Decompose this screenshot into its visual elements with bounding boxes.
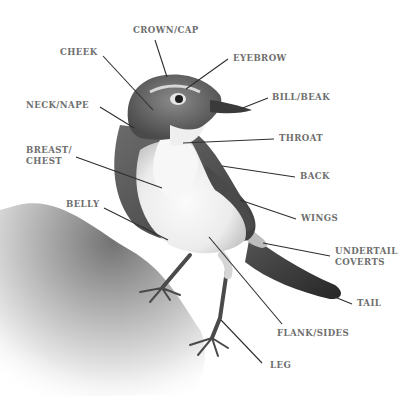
label-eyebrow: EYEBROW xyxy=(233,53,287,64)
label-bill-beak: BILL/BEAK xyxy=(272,92,330,103)
head xyxy=(128,74,252,145)
label-neck-nape: NECK/NAPE xyxy=(26,100,89,111)
leader-line-back xyxy=(222,166,295,177)
label-tail: TAIL xyxy=(357,298,381,309)
leader-line-bill xyxy=(240,98,268,109)
label-flank-sides: FLANK/SIDES xyxy=(277,328,349,339)
label-back: BACK xyxy=(300,171,330,182)
label-leg: LEG xyxy=(270,360,291,371)
label-throat: THROAT xyxy=(279,133,323,144)
leader-line-leg xyxy=(221,320,262,363)
label-crown-cap: CROWN/CAP xyxy=(133,25,199,36)
tail xyxy=(240,225,341,299)
leader-line-crown xyxy=(155,40,167,77)
label-wings: WINGS xyxy=(301,213,338,224)
label-belly: BELLY xyxy=(66,199,99,210)
label-undertail-coverts: UNDERTAIL COVERTS xyxy=(335,246,398,268)
label-cheek: CHEEK xyxy=(60,47,98,58)
bird-anatomy-diagram: CROWN/CAP CHEEK EYEBROW NECK/NAPE BILL/B… xyxy=(0,0,417,397)
label-breast-chest: BREAST/ CHEST xyxy=(26,145,72,167)
bird-illustration xyxy=(0,0,417,397)
